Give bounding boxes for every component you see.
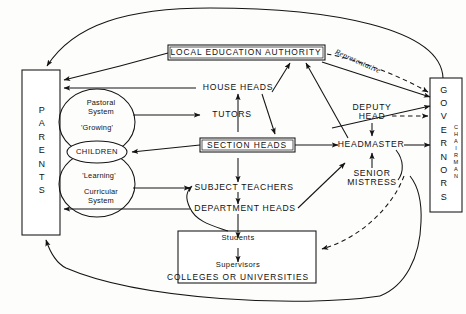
pastoral-system-label-line1: Pastoral	[87, 99, 116, 107]
edge-headmaster-to-lea	[306, 63, 348, 138]
supervisors-label: Supervisors	[216, 261, 261, 269]
curricular-system-label-line2: System	[88, 197, 114, 205]
curricular-system-label-line1: Curricular	[84, 188, 118, 196]
edge-lea-to-parents	[64, 53, 168, 80]
colleges-box-label: COLLEGES OR UNIVERSITIES	[167, 273, 309, 282]
growing-label: 'Growing'	[81, 124, 113, 132]
senior-mistress-label-line2: MISTRESS	[347, 178, 397, 187]
edge-right-lower-curve	[380, 176, 421, 296]
children-label: CHILDREN	[76, 148, 118, 156]
governors-box-label: GOVERNORS	[438, 85, 447, 206]
students-label: Students	[221, 234, 254, 242]
governors-chairman-label: CHAIRMAN	[452, 124, 458, 181]
edge-house-heads-to-lea	[272, 63, 290, 92]
parents-box-label: PARENTS	[36, 105, 45, 199]
headmaster-label: HEADMASTER	[338, 140, 405, 149]
edge-governors-to-parents	[47, 8, 443, 78]
house-heads-label: HOUSE HEADS	[203, 83, 273, 92]
edge-house-heads-to-section-heads	[262, 94, 275, 134]
edge-section-heads-to-children	[132, 145, 200, 152]
edge-department-heads-to-headmaster	[298, 163, 345, 208]
edge-headmaster-right-curve	[396, 150, 402, 180]
pastoral-system-label-line2: System	[88, 108, 114, 116]
deputy-head-label-line2: HEAD	[359, 112, 386, 121]
diagram-canvas: PARENTS GOVERNORS CHAIRMAN LOCAL EDUCATI…	[0, 0, 466, 314]
learning-label: 'Learning'	[82, 172, 116, 180]
section-heads-box-label: SECTION HEADS	[207, 141, 287, 150]
lea-box-label: LOCAL EDUCATION AUTHORITY	[171, 48, 322, 57]
tutors-label: TUTORS	[212, 110, 251, 119]
subject-teachers-label: SUBJECT TEACHERS	[194, 183, 293, 192]
department-heads-label: DEPARTMENT HEADS	[194, 204, 295, 213]
